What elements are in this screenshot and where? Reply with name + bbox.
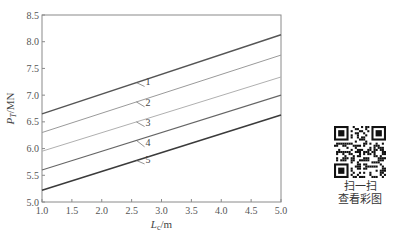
line-labels: 12345 bbox=[136, 76, 150, 164]
axis-ticks: 1.01.52.02.53.03.54.04.55.05.05.56.06.57… bbox=[27, 10, 288, 217]
x-tick-label: 4.0 bbox=[215, 205, 228, 216]
plot-frame bbox=[42, 15, 281, 202]
series-line-3 bbox=[42, 77, 281, 151]
series-line-2 bbox=[42, 55, 281, 132]
y-tick-label: 6.0 bbox=[27, 143, 40, 154]
line-chart: 1.01.52.02.53.03.54.04.55.05.05.56.06.57… bbox=[0, 0, 320, 235]
qr-caption-line1: 扫一扫 bbox=[333, 180, 387, 193]
y-tick-label: 5.0 bbox=[27, 197, 40, 208]
series-label-1: 1 bbox=[146, 76, 151, 87]
x-tick-label: 4.5 bbox=[245, 205, 258, 216]
x-tick-label: 2.0 bbox=[96, 205, 109, 216]
plot-border bbox=[42, 15, 281, 202]
series-label-4: 4 bbox=[146, 137, 151, 148]
qr-code-block: 扫一扫 查看彩图 bbox=[333, 124, 387, 206]
y-tick-label: 5.5 bbox=[27, 170, 40, 181]
y-tick-label: 6.5 bbox=[27, 116, 40, 127]
series-line-1 bbox=[42, 35, 281, 114]
x-tick-label: 1.5 bbox=[66, 205, 79, 216]
y-tick-label: 8.5 bbox=[27, 10, 40, 21]
x-tick-label: 3.5 bbox=[185, 205, 198, 216]
y-tick-label: 8.0 bbox=[27, 36, 40, 47]
x-tick-label: 2.5 bbox=[125, 205, 138, 216]
qr-code-icon[interactable] bbox=[334, 124, 386, 180]
series-label-2: 2 bbox=[146, 97, 151, 108]
data-lines bbox=[42, 35, 281, 190]
x-tick-label: 5.0 bbox=[275, 205, 288, 216]
series-label-5: 5 bbox=[146, 154, 151, 165]
qr-caption-line2: 查看彩图 bbox=[333, 193, 387, 206]
series-label-3: 3 bbox=[146, 117, 151, 128]
y-axis-title: PT/MN bbox=[4, 92, 18, 125]
y-tick-label: 7.0 bbox=[27, 90, 40, 101]
x-axis-title: Lc/m bbox=[150, 218, 173, 232]
x-tick-label: 3.0 bbox=[155, 205, 168, 216]
y-tick-label: 7.5 bbox=[27, 63, 40, 74]
series-line-5 bbox=[42, 115, 281, 190]
series-line-4 bbox=[42, 95, 281, 170]
